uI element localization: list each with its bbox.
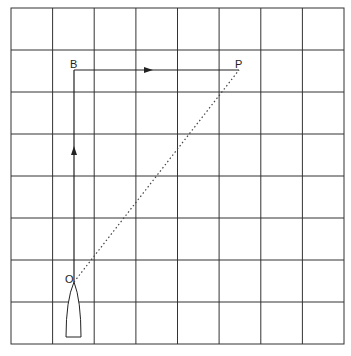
- path-b-to-p: [74, 67, 239, 73]
- grid: [11, 8, 344, 344]
- arrow-right-icon: [144, 67, 153, 73]
- label-p: P: [235, 58, 242, 70]
- label-o: O: [65, 273, 74, 285]
- diagram-canvas: O B P: [0, 0, 351, 356]
- boat-icon: [66, 282, 81, 337]
- label-b: B: [70, 58, 77, 70]
- arrow-up-icon: [71, 146, 77, 155]
